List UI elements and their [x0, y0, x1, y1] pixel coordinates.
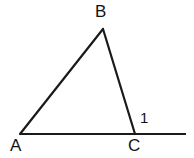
geometry-figure: A B C 1 — [0, 0, 194, 158]
vertex-label-c: C — [128, 137, 140, 154]
segment-ab — [20, 29, 103, 134]
vertex-label-a: A — [10, 137, 21, 154]
angle-label-1: 1 — [140, 110, 148, 125]
segment-bc — [103, 29, 135, 134]
vertex-label-b: B — [95, 3, 106, 20]
triangle-diagram-canvas — [0, 0, 194, 158]
